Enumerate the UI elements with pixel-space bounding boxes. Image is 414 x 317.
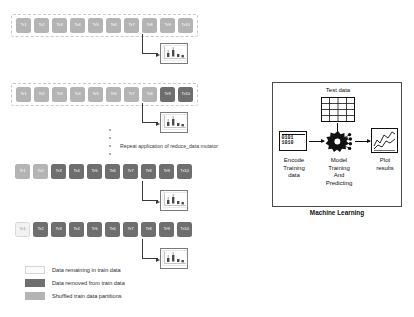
model-training-label: Model Training And Predicting [317, 157, 361, 187]
plot-results-label: Plot results [365, 157, 405, 172]
partition-block: Tr6 [106, 18, 121, 33]
partition-block: Tr4 [69, 222, 84, 237]
boxplot-result-icon-1 [160, 43, 188, 64]
arrow-model-to-plot [355, 141, 370, 142]
partition-block: Tr5 [88, 87, 103, 102]
boxplot-glyph [161, 44, 189, 65]
partition-block: Tr2 [33, 164, 48, 179]
boxplot-result-icon-2 [160, 112, 188, 133]
test-data-label: Test data [312, 87, 364, 95]
partition-block: Tr8 [141, 222, 156, 237]
partition-block: Tr10 [178, 87, 193, 102]
boxplot-glyph [161, 249, 189, 270]
partition-block: Tr10 [178, 18, 193, 33]
legend-swatch-shuffled [25, 292, 45, 300]
connector-vline [142, 181, 143, 201]
partition-block: Tr10 [177, 222, 192, 237]
binary-data-icon: 0101 1010 [279, 131, 307, 151]
legend-item-shuffled: Shuffled train data partitions [25, 290, 125, 301]
legend-swatch-remaining [25, 266, 45, 274]
legend-item-removed: Data removed from train data [25, 277, 125, 288]
row-3-more-removed: Tr1Tr2Tr3Tr4Tr5Tr6Tr7Tr8Tr9Tr10 [11, 161, 196, 182]
partition-block: Tr4 [70, 18, 85, 33]
legend-swatch-removed [25, 279, 45, 287]
connector-vline [142, 239, 143, 259]
partition-block: Tr8 [142, 87, 157, 102]
partition-block: Tr9 [159, 222, 174, 237]
connector-vline [142, 103, 143, 123]
binary-bottom-row: 1010 [282, 141, 305, 146]
legend: Data remaining in train data Data remove… [25, 264, 125, 303]
partition-block: Tr9 [159, 164, 174, 179]
machine-learning-title: Machine Learning [272, 209, 402, 216]
partition-block: Tr3 [51, 164, 66, 179]
partition-block: Tr1 [15, 222, 30, 237]
partition-block: Tr1 [16, 87, 31, 102]
partition-block: Tr3 [51, 222, 66, 237]
partition-block: Tr5 [88, 18, 103, 33]
partition-block: Tr3 [52, 18, 67, 33]
partition-block: Tr5 [87, 222, 102, 237]
partition-block: Tr6 [106, 87, 121, 102]
legend-label-remaining: Data remaining in train data [52, 267, 121, 273]
partition-block: Tr8 [141, 164, 156, 179]
connector-row-2 [142, 103, 160, 123]
connector-row-1 [142, 34, 160, 54]
connector-vline [142, 34, 143, 54]
partition-block: Tr7 [124, 18, 139, 33]
plot-results-icon [371, 128, 398, 153]
encode-training-data-label: Encode Training data [273, 157, 315, 180]
partition-block: Tr10 [177, 164, 192, 179]
repeat-dots [109, 129, 111, 155]
legend-item-remaining: Data remaining in train data [25, 264, 125, 275]
boxplot-glyph [161, 191, 189, 212]
diagram-canvas: Tr1Tr2Tr3Tr4Tr5Tr6Tr7Tr8Tr9Tr10Tr1Tr2Tr3… [0, 0, 414, 317]
model-gear-icon [325, 129, 353, 155]
partition-block: Tr8 [142, 18, 157, 33]
machine-learning-panel: Test data 0101 1010 Encode Training data [272, 82, 402, 207]
boxplot-result-icon-3 [160, 190, 188, 211]
partition-block: Tr6 [105, 164, 120, 179]
partition-block: Tr2 [34, 18, 49, 33]
row-2-one-removed: Tr1Tr2Tr3Tr4Tr5Tr6Tr7Tr8Tr9Tr10 [11, 83, 198, 106]
partition-block: Tr9 [160, 87, 175, 102]
legend-label-shuffled: Shuffled train data partitions [52, 293, 122, 299]
partition-block: Tr2 [34, 87, 49, 102]
arrow-encode-to-model [309, 141, 324, 142]
partition-block: Tr7 [124, 87, 139, 102]
partition-block: Tr7 [123, 222, 138, 237]
partition-block: Tr5 [87, 164, 102, 179]
partition-block: Tr4 [69, 164, 84, 179]
row-1-shuffled-partitions: Tr1Tr2Tr3Tr4Tr5Tr6Tr7Tr8Tr9Tr10 [11, 14, 198, 37]
partition-block: Tr4 [70, 87, 85, 102]
partition-block: Tr3 [52, 87, 67, 102]
partition-block: Tr1 [16, 18, 31, 33]
boxplot-result-icon-4 [160, 248, 188, 269]
partition-block: Tr1 [15, 164, 30, 179]
row-4-one-remaining: Tr1Tr2Tr3Tr4Tr5Tr6Tr7Tr8Tr9Tr10 [11, 219, 196, 240]
partition-block: Tr6 [105, 222, 120, 237]
partition-block: Tr9 [160, 18, 175, 33]
legend-label-removed: Data removed from train data [52, 280, 125, 286]
connector-row-4 [142, 239, 160, 259]
partition-block: Tr7 [123, 164, 138, 179]
connector-row-3 [142, 181, 160, 201]
partition-block: Tr2 [33, 222, 48, 237]
test-data-table-icon [321, 97, 355, 122]
repeat-note: Repeat application of reduce_data mutato… [120, 143, 218, 149]
boxplot-glyph [161, 113, 189, 134]
